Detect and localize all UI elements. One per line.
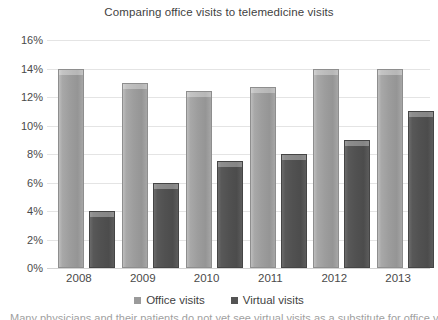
y-axis-tick-label: 12% — [3, 91, 43, 103]
chart-legend: Office visitsVirtual visits — [0, 294, 438, 306]
bar-group — [111, 40, 175, 268]
y-axis-tick-label: 6% — [3, 177, 43, 189]
chart-title: Comparing office visits to telemedicine … — [0, 6, 438, 18]
bar-group — [47, 40, 111, 268]
bar-office-visits-2010 — [186, 91, 212, 268]
plot-area — [47, 40, 430, 268]
y-axis-tick-label: 8% — [3, 148, 43, 160]
bar-group — [302, 40, 366, 268]
legend-item-virtual-visits[interactable]: Virtual visits — [231, 294, 304, 306]
bar-highlight — [187, 92, 211, 97]
legend-swatch-icon — [134, 297, 141, 304]
bar-group — [239, 40, 303, 268]
x-axis-tick-label-2013: 2013 — [358, 272, 438, 284]
bar-office-visits-2009 — [122, 83, 148, 268]
y-axis-tick-label: 0% — [3, 262, 43, 274]
bar-highlight — [123, 84, 147, 89]
y-axis-tick-label: 10% — [3, 120, 43, 132]
bar-office-visits-2012 — [313, 69, 339, 269]
figure-caption-clipped: Many physicians and their patients do no… — [0, 312, 438, 320]
bar-chart: Comparing office visits to telemedicine … — [0, 0, 438, 320]
bar-office-visits-2013 — [377, 69, 403, 269]
bar-highlight — [409, 112, 433, 117]
bar-virtual-visits-2013 — [408, 111, 434, 268]
bar-group — [175, 40, 239, 268]
bar-highlight — [59, 70, 83, 75]
legend-swatch-icon — [231, 297, 238, 304]
figure-caption-text: Many physicians and their patients do no… — [0, 312, 438, 320]
legend-label: Office visits — [146, 294, 205, 306]
y-axis-tick-label: 4% — [3, 205, 43, 217]
legend-label: Virtual visits — [243, 294, 304, 306]
gridline — [47, 268, 430, 269]
bar-highlight — [314, 70, 338, 75]
bar-office-visits-2008 — [58, 69, 84, 269]
bar-office-visits-2011 — [250, 87, 276, 268]
bar-highlight — [251, 88, 275, 93]
legend-item-office-visits[interactable]: Office visits — [134, 294, 205, 306]
y-axis-tick-label: 16% — [3, 34, 43, 46]
bar-group — [366, 40, 430, 268]
y-axis-tick-label: 14% — [3, 63, 43, 75]
y-axis-tick-label: 2% — [3, 234, 43, 246]
bar-highlight — [378, 70, 402, 75]
